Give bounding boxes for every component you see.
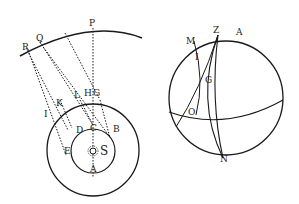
label-B: B [113, 124, 120, 134]
label-N: N [220, 154, 228, 164]
label-A-right: A [235, 27, 243, 37]
label-O: O [188, 107, 195, 117]
meridian-arc-2 [215, 35, 223, 158]
label-S: S [100, 144, 108, 158]
label-I: I [44, 109, 48, 119]
celestial-sphere [169, 41, 283, 155]
label-P: P [89, 18, 95, 28]
label-L: L [74, 90, 80, 100]
sun-icon [90, 148, 96, 154]
label-A: A [89, 164, 97, 174]
label-I-right: I [195, 52, 199, 62]
label-D: D [76, 125, 83, 135]
label-E: E [64, 146, 71, 156]
label-Z: Z [213, 25, 219, 35]
label-G-right: G [205, 75, 212, 85]
label-Q: Q [36, 33, 43, 43]
diagram-canvas: R Q P K L H G I D C B E S A M Z A I G O … [0, 0, 299, 204]
label-R: R [22, 42, 29, 52]
label-C: C [90, 123, 97, 133]
label-H: H [84, 88, 92, 98]
label-G: G [93, 88, 100, 98]
label-M: M [186, 36, 195, 46]
label-K: K [56, 98, 63, 108]
